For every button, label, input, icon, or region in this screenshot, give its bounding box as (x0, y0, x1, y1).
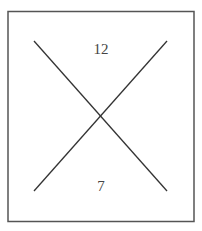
bottom-label: 7 (97, 178, 105, 194)
top-label: 12 (94, 41, 109, 57)
x-diagram: 12 7 (0, 0, 202, 231)
